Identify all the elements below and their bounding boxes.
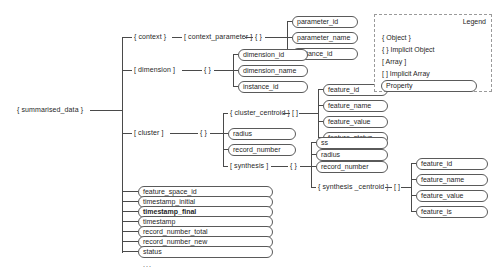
prop-cluster-radius: radius	[228, 128, 296, 140]
legend-row-property: Property	[381, 80, 477, 92]
prop-dimension-id: dimension_id	[238, 49, 308, 61]
prop-cc-feature-value: feature_value	[323, 116, 388, 128]
node-cluster-centroid-implicit-array: [ ]	[291, 108, 299, 117]
connector-root-to-spine	[90, 110, 122, 111]
prop-synthesis-record-number: record_number	[316, 161, 388, 173]
stub-root-record-number-new	[122, 241, 138, 242]
legend-panel: Legend { Object } { } Implicit Object [ …	[374, 14, 492, 92]
connector-synthesis-to-implicit	[271, 166, 288, 167]
legend-row-array: [ Array ]	[382, 57, 406, 66]
root-node-summarised-data: { summarised_data }	[16, 105, 84, 114]
stub-root-feature-space-id	[122, 191, 138, 192]
node-cluster-centroid: { cluster_centroid }	[229, 108, 291, 117]
stub-root-status	[122, 251, 138, 252]
node-context: { context }	[133, 32, 167, 41]
prop-sc-feature-id: feature_id	[416, 158, 488, 170]
connector-array-to-cluster-centroid-props	[299, 113, 318, 114]
stub-synthesis	[223, 166, 228, 167]
stub-root-record-number-total	[122, 231, 138, 232]
spine-synthesis-children	[311, 142, 312, 187]
prop-dimension-name: dimension_name	[238, 65, 308, 77]
stub-cluster-centroid	[223, 113, 228, 114]
node-cluster-implicit-object: { }	[199, 128, 208, 137]
legend-row-object: { Object }	[382, 33, 411, 42]
connector-array-to-synthesis-centroid-props	[401, 187, 411, 188]
prop-sc-feature-is: feature_is	[416, 206, 488, 218]
prop-sc-feature-name: feature_name	[416, 174, 488, 186]
spine-cluster-centroid-props	[318, 89, 319, 137]
stub-synthesis-centroid	[311, 187, 316, 188]
legend-row-implicit-array: [ ] Implicit Array	[382, 69, 430, 78]
root-props-ellipsis: ...	[143, 260, 152, 269]
prop-sc-feature-value: feature_value	[416, 190, 488, 202]
json-schema-tree-diagram: { summarised_data } { context } [ contex…	[0, 0, 495, 274]
connector-spine-dimension	[122, 70, 132, 71]
node-dimension: [ dimension ]	[133, 65, 176, 74]
connector-implicit-to-synthesis-children	[300, 166, 311, 167]
connector-implicit-to-dimension-props	[214, 70, 233, 71]
node-synthesis-implicit-object: { }	[289, 161, 298, 170]
node-dimension-implicit-object: { }	[203, 65, 212, 74]
stub-root-timestamp-initial	[122, 201, 138, 202]
connector-spine-cluster	[122, 133, 132, 134]
stub-root-timestamp-final	[122, 211, 138, 212]
spine-synthesis-centroid-props	[411, 163, 412, 211]
connector-cluster-centroid-to-array	[283, 113, 290, 114]
connector-context-parameter-to-implicit	[245, 37, 253, 38]
node-synthesis-centroid: { synthesis _centroid }	[317, 182, 390, 191]
prop-cc-feature-name: feature_name	[323, 100, 388, 112]
legend-title: Legend	[463, 17, 486, 26]
spine-cluster-children	[223, 113, 224, 166]
connector-implicit-to-cluster-children	[210, 133, 223, 134]
prop-synthesis-radius: radius	[316, 149, 388, 161]
legend-row-implicit-object: { } Implicit Object	[382, 45, 435, 54]
node-synthesis: [ synthesis ]	[229, 161, 269, 170]
prop-status: status	[138, 246, 273, 258]
connector-context-to-context-parameter	[172, 37, 182, 38]
prop-synthesis-ss: ss	[316, 137, 388, 149]
connector-synthesis-centroid-to-array	[385, 187, 392, 188]
prop-cluster-record-number: record_number	[228, 144, 296, 156]
prop-parameter-id: parameter_id	[292, 16, 358, 28]
prop-instance-id-dimension: instance_id	[238, 81, 308, 93]
node-context-parameter: [ context_parameter ]	[183, 32, 253, 41]
connector-cluster-to-implicit	[170, 133, 198, 134]
node-context-parameter-implicit-object: { }	[254, 32, 263, 41]
stub-root-timestamp	[122, 221, 138, 222]
prop-parameter-name: parameter_name	[292, 32, 358, 44]
connector-spine-context	[122, 37, 132, 38]
node-synthesis-centroid-implicit-array: [ ]	[393, 182, 401, 191]
connector-dimension-to-implicit	[182, 70, 202, 71]
connector-implicit-to-context-parameter-props	[265, 37, 287, 38]
node-cluster: [ cluster ]	[133, 128, 165, 137]
